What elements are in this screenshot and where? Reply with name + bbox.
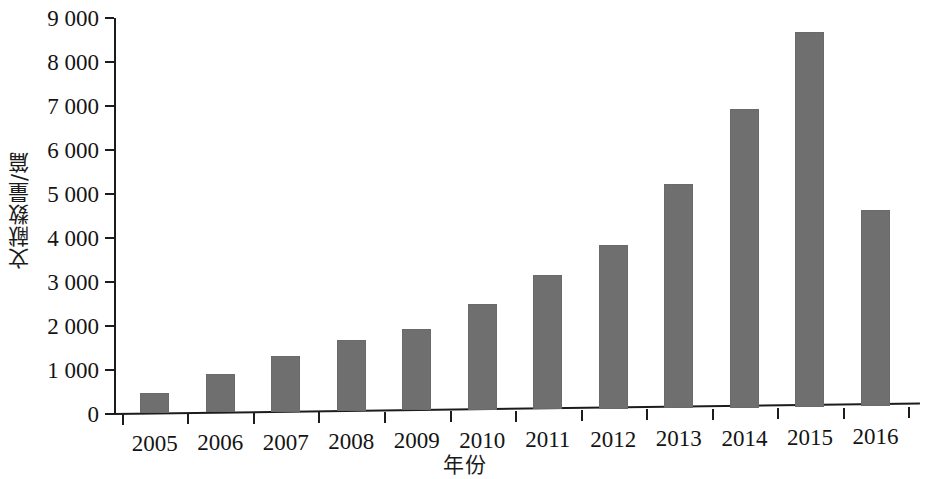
bar bbox=[337, 340, 366, 411]
x-axis-tick bbox=[384, 412, 386, 423]
y-axis-title: 文献数量/篇 bbox=[2, 0, 38, 420]
bar bbox=[730, 109, 759, 408]
y-axis-tick-label: 6 000 bbox=[47, 139, 99, 162]
x-axis-tick bbox=[122, 414, 124, 425]
bar bbox=[533, 275, 562, 409]
y-axis-tick: 9 000 bbox=[105, 17, 114, 19]
y-axis-tick-label: 0 bbox=[88, 403, 100, 426]
y-axis-tick: 5 000 bbox=[105, 193, 114, 195]
x-axis-tick bbox=[908, 407, 910, 418]
bar bbox=[468, 304, 497, 410]
y-axis-tick-label: 5 000 bbox=[47, 183, 99, 206]
bar bbox=[402, 329, 431, 411]
bar bbox=[271, 356, 300, 412]
x-axis-tick bbox=[581, 410, 583, 421]
y-axis-tick: 0 bbox=[105, 413, 114, 415]
y-axis-tick: 7 000 bbox=[105, 105, 114, 107]
y-axis-tick: 2 000 bbox=[105, 325, 114, 327]
y-axis-tick-label: 7 000 bbox=[47, 95, 99, 118]
x-axis-tick bbox=[450, 411, 452, 422]
y-axis-line bbox=[114, 18, 116, 414]
x-axis-tick bbox=[777, 408, 779, 419]
y-axis-tick-label: 8 000 bbox=[47, 51, 99, 74]
y-axis-tick-label: 2 000 bbox=[47, 315, 99, 338]
x-axis-tick-label: 2016 bbox=[852, 425, 898, 448]
x-axis-tick bbox=[187, 413, 189, 424]
bar bbox=[795, 32, 824, 407]
y-axis-tick: 1 000 bbox=[105, 369, 114, 371]
y-axis-tick-label: 3 000 bbox=[47, 271, 99, 294]
x-axis-tick bbox=[253, 413, 255, 424]
y-axis-tick: 3 000 bbox=[105, 281, 114, 283]
plot-area: 01 0002 0003 0004 0005 0006 0007 0008 00… bbox=[114, 18, 920, 414]
bar bbox=[861, 210, 890, 407]
x-axis-tick bbox=[712, 409, 714, 420]
y-axis-tick-label: 9 000 bbox=[47, 7, 99, 30]
y-axis-tick-label: 1 000 bbox=[47, 359, 99, 382]
y-axis-tick: 4 000 bbox=[105, 237, 114, 239]
y-axis-tick: 8 000 bbox=[105, 61, 114, 63]
x-axis-tick bbox=[318, 412, 320, 423]
x-axis-tick-label: 2014 bbox=[721, 427, 767, 450]
bar bbox=[664, 184, 693, 408]
x-axis-tick bbox=[515, 411, 517, 422]
x-axis-tick bbox=[646, 409, 648, 420]
x-axis-tick-label: 2013 bbox=[656, 427, 702, 450]
bar bbox=[599, 245, 628, 409]
x-axis-tick-label: 2015 bbox=[787, 426, 833, 449]
y-axis-tick-label: 4 000 bbox=[47, 227, 99, 250]
bar bbox=[206, 374, 235, 412]
bar bbox=[140, 393, 169, 412]
x-axis-tick bbox=[843, 408, 845, 419]
y-axis-tick: 6 000 bbox=[105, 149, 114, 151]
x-axis-title: 年份 bbox=[0, 448, 929, 478]
bar-chart: 文献数量/篇 01 0002 0003 0004 0005 0006 0007 … bbox=[0, 0, 929, 479]
y-axis-title-text: 文献数量/篇 bbox=[5, 151, 35, 269]
